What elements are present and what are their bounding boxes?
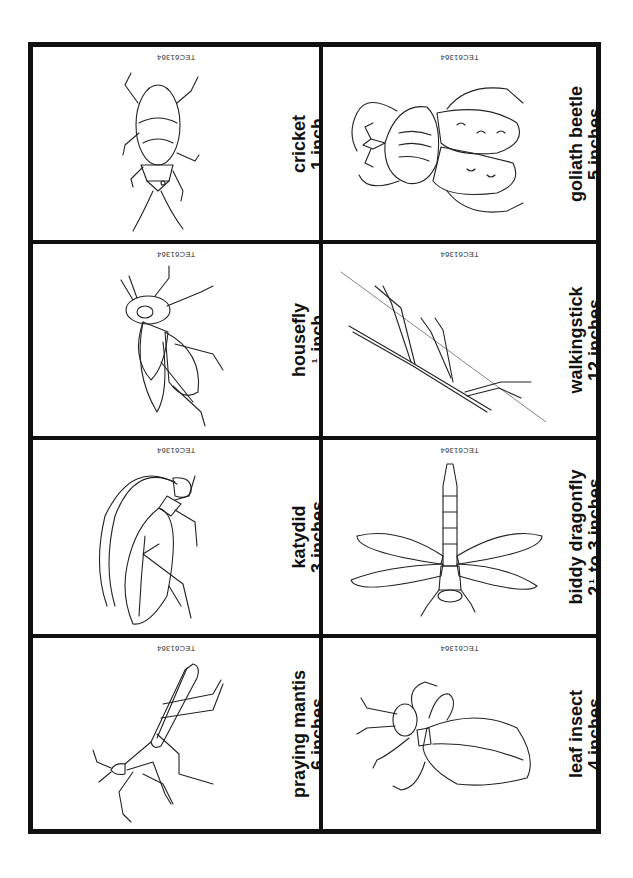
insect-name: housefly [290, 303, 309, 377]
leaf-insect-illustration [337, 668, 547, 818]
card-housefly: TEC61364 housefly 12 inch [33, 244, 319, 436]
product-code: TEC61364 [323, 250, 596, 259]
card-goliath-beetle: TEC61364 goliath beetle 5 inches [323, 47, 596, 240]
insect-name: biddy dragonfly [567, 470, 586, 605]
card-cricket: TEC61364 cricket 1 inc [33, 47, 319, 240]
card-biddy-dragonfly: TEC61364 biddy dragonfly 212 to 3 inches [323, 440, 596, 634]
card-praying-mantis: TEC61364 praying mantis 6 inches [33, 638, 319, 829]
insect-name: walkingstick [567, 286, 586, 393]
insect-size: 1 inch [309, 114, 319, 172]
cricket-illustration [73, 63, 243, 233]
insect-size: 212 to 3 inches [586, 470, 596, 605]
insect-name: cricket [290, 114, 309, 172]
size-fraction: 12 [588, 578, 596, 584]
card-walkingstick: TEC61364 walkingstick 12 inches [323, 244, 596, 436]
insect-name: katydid [290, 501, 309, 573]
insect-card-sheet: TEC61364 cricket 1 inc [28, 42, 601, 834]
product-code: TEC61364 [33, 446, 319, 455]
goliath-beetle-illustration [337, 83, 537, 223]
size-fraction: 12 [311, 358, 319, 364]
walkingstick-illustration [331, 262, 546, 432]
insect-size: 4 inches [586, 689, 596, 777]
product-code: TEC61364 [323, 53, 596, 62]
katydid-illustration [63, 456, 243, 626]
insect-size: 6 inches [309, 669, 319, 797]
housefly-illustration [73, 262, 253, 432]
insect-name: goliath beetle [567, 85, 586, 201]
product-code: TEC61364 [33, 250, 319, 259]
product-code: TEC61364 [33, 644, 319, 653]
card-katydid: TEC61364 katydid 3 inches [33, 440, 319, 634]
insect-name: leaf insect [567, 689, 586, 777]
insect-size: 3 inches [309, 501, 319, 573]
card-leaf-insect: TEC61364 leaf insect 4 inches [323, 638, 596, 829]
biddy-dragonfly-illustration [337, 456, 547, 626]
insect-size: 12 inches [586, 286, 596, 393]
product-code: TEC61364 [323, 446, 596, 455]
product-code: TEC61364 [33, 53, 319, 62]
praying-mantis-illustration [53, 654, 253, 824]
insect-size: 12 inch [309, 303, 319, 377]
insect-size: 5 inches [586, 85, 596, 201]
product-code: TEC61364 [323, 644, 596, 653]
insect-name: praying mantis [290, 669, 309, 797]
